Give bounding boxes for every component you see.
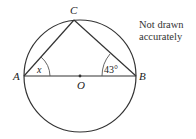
label-c: C: [70, 4, 78, 16]
not-drawn-accurately-note: Not drawn accurately: [139, 19, 196, 43]
center-point-o: [79, 75, 82, 78]
note-line-2: accurately: [139, 31, 196, 43]
label-a: A: [12, 70, 20, 82]
note-line-1: Not drawn: [139, 19, 196, 31]
angle-label-43: 43°: [104, 64, 118, 75]
label-b: B: [139, 70, 146, 82]
label-o: O: [77, 79, 85, 91]
angle-label-x: x: [36, 64, 42, 75]
angle-arc-a: [41, 57, 50, 76]
